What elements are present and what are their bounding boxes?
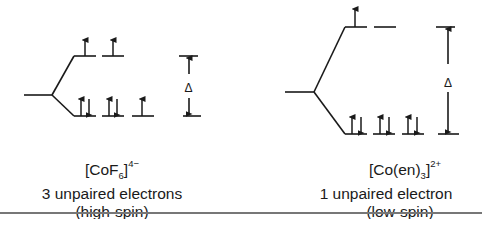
right-delta-label: Δ xyxy=(444,76,452,90)
right-upper-branch xyxy=(314,27,345,92)
left-complex-caption: [CoF6]4− 3 unpaired electrons (high-spin… xyxy=(22,157,202,219)
right-complex-formula: [Co(en)3]2+ xyxy=(310,157,482,185)
left-complex-formula: [CoF6]4− xyxy=(22,157,202,185)
left-upper-branch xyxy=(52,56,74,95)
left-electrons xyxy=(81,40,142,116)
right-complex-caption: [Co(en)3]2+ 1 unpaired electron (low-spi… xyxy=(310,157,482,219)
bottom-rule xyxy=(0,212,482,214)
right-splitting-diagram xyxy=(285,27,424,134)
left-unpaired-count: 3 unpaired electrons xyxy=(22,185,202,203)
right-lower-branch xyxy=(314,92,345,134)
right-unpaired-count: 1 unpaired electron xyxy=(282,185,482,203)
left-delta-label: Δ xyxy=(184,81,192,95)
left-lower-branch xyxy=(52,95,74,116)
